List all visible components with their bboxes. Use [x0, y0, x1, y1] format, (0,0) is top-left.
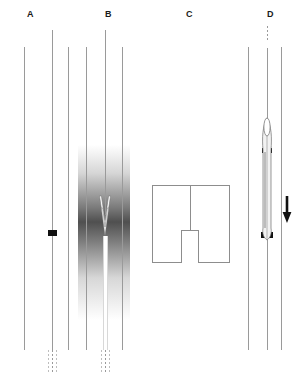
panel-a-center-guidewire: [52, 30, 53, 350]
panel-d-right-vessel-wall: [281, 47, 282, 350]
panel-label-d: D: [267, 10, 274, 19]
panel-a-dashed-tail-center: [52, 350, 53, 374]
panel-d-distal-marker-band: [261, 232, 273, 238]
panel-d-left-vessel-wall: [248, 47, 249, 350]
panel-a-dashed-tail-right: [56, 350, 57, 374]
panel-label-b: B: [105, 10, 112, 19]
panel-d-proximal-marker-band: [262, 148, 272, 153]
panel-a-right-vessel-wall: [68, 47, 69, 350]
vector-overlay: [0, 0, 299, 380]
panel-c-catheter-stem: [190, 186, 191, 231]
panel-label-a: A: [27, 10, 34, 19]
panel-d-dashed-proximal-shaft: [267, 26, 268, 42]
panel-d-advance-arrow: [283, 196, 292, 223]
panel-label-c: C: [186, 10, 193, 19]
panel-a-dashed-tail-left: [48, 350, 49, 374]
panel-a-left-vessel-wall: [24, 47, 25, 350]
panel-c-open-tube: [181, 230, 199, 263]
panel-b-dashed-tail-center: [105, 350, 106, 374]
panel-b-dashed-tail-right: [109, 350, 110, 374]
panel-b-dashed-tail-left: [101, 350, 102, 374]
figure-root: A B C D: [0, 0, 299, 380]
panel-a-marker-band: [48, 230, 57, 236]
panel-b-right-vessel-wall: [122, 47, 123, 350]
panel-b-core-edge-left: [103, 236, 104, 350]
panel-b-core-edge-right: [107, 236, 108, 350]
panel-d-center-shaft: [267, 48, 268, 350]
panel-b-left-vessel-wall: [86, 47, 87, 350]
panel-b-center-catheter-upper: [105, 30, 106, 215]
